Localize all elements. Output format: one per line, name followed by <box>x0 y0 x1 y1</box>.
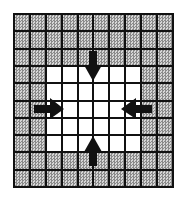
arrow-up-icon <box>84 136 102 166</box>
arrows <box>0 0 185 198</box>
arrow-down-icon <box>84 51 102 81</box>
arrow-right-icon <box>34 98 64 119</box>
arrow-left-icon <box>121 98 152 119</box>
